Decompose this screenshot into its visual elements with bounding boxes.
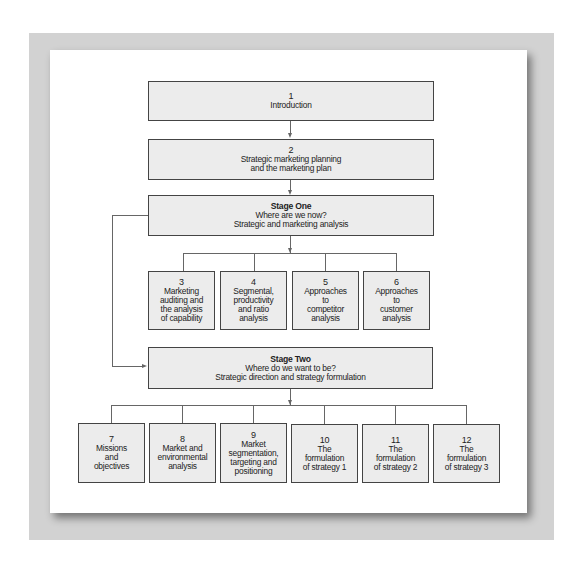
box-4-segmental-analysis: 4 Segmental, productivity and ratio anal…	[220, 271, 287, 330]
connector-to-box4	[254, 253, 255, 271]
box-text: analysis	[168, 462, 197, 471]
box-1-introduction: 1 Introduction	[148, 81, 434, 121]
connector-stage1-bus	[183, 253, 397, 254]
box-text: and the marketing plan	[251, 164, 332, 173]
connector-to-box9	[253, 405, 254, 424]
box-text: objectives	[94, 462, 129, 471]
arrow-down-icon	[288, 133, 292, 138]
box-11-formulation-strategy-2: 11 The formulation of strategy 2	[362, 424, 429, 483]
connector-to-box7	[111, 405, 112, 424]
connector-stage2-bus	[111, 405, 467, 406]
stage-one-box: Stage One Where are we now? Strategic an…	[148, 195, 434, 236]
connector-to-box11	[395, 405, 396, 424]
connector-to-box6	[396, 253, 397, 271]
box-2-strategic-marketing-planning: 2 Strategic marketing planning and the m…	[148, 139, 434, 180]
bypass-connector-vertical	[112, 215, 113, 367]
connector-to-box12	[466, 405, 467, 424]
box-text: analysis	[311, 314, 340, 323]
connector-to-box3	[183, 253, 184, 271]
box-text: of strategy 3	[445, 463, 489, 472]
stage-subtitle: Strategic direction and strategy formula…	[215, 373, 365, 382]
box-text: Introduction	[270, 101, 311, 110]
stage-subtitle: Strategic and marketing analysis	[234, 220, 349, 229]
box-text: of strategy 1	[303, 463, 347, 472]
box-5-competitor-analysis: 5 Approaches to competitor analysis	[292, 271, 359, 330]
box-12-formulation-strategy-3: 12 The formulation of strategy 3	[433, 424, 500, 483]
connector-to-box10	[324, 405, 325, 424]
box-text: positioning	[235, 467, 273, 476]
box-text: analysis	[239, 314, 268, 323]
connector-to-box5	[325, 253, 326, 271]
arrow-right-icon	[142, 364, 147, 368]
stage-two-box: Stage Two Where do we want to be? Strate…	[148, 347, 433, 389]
box-7-missions-objectives: 7 Missions and objectives	[78, 423, 145, 483]
bypass-connector-horizontal-bottom	[112, 366, 143, 367]
box-text: analysis	[382, 314, 411, 323]
bypass-connector-horizontal-top	[112, 215, 148, 216]
box-text: of strategy 2	[374, 463, 418, 472]
box-text: of capability	[161, 314, 203, 323]
box-10-formulation-strategy-1: 10 The formulation of strategy 1	[291, 424, 358, 483]
box-6-customer-analysis: 6 Approaches to customer analysis	[363, 271, 430, 330]
box-8-market-environmental: 8 Market and environmental analysis	[149, 423, 216, 483]
box-3-marketing-auditing: 3 Marketing auditing and the analysis of…	[148, 271, 215, 330]
box-9-segmentation-targeting: 9 Market segmentation, targeting and pos…	[220, 423, 287, 483]
connector-to-box8	[182, 405, 183, 424]
